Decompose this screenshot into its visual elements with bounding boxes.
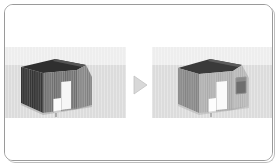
house-model-before[interactable] [13, 51, 113, 121]
after-panel[interactable] [152, 5, 272, 160]
door-panel-edge [216, 82, 217, 110]
door-panel-edge [61, 82, 62, 110]
step-panel-edge [53, 99, 54, 113]
figure-root [0, 0, 278, 166]
gable-wall-right-shade [77, 65, 92, 109]
door-panel [216, 81, 227, 110]
step-panel [208, 98, 216, 113]
figure-canvas [5, 5, 272, 160]
transition-arrow-label [149, 74, 150, 75]
before-panel[interactable] [5, 5, 126, 160]
figure-caption [0, 0, 1, 1]
house-model-after[interactable] [166, 49, 266, 119]
transition-arrow[interactable] [131, 74, 149, 96]
play-triangle-icon [134, 76, 147, 94]
door-panel [61, 81, 71, 110]
step-panel-edge [208, 99, 209, 113]
